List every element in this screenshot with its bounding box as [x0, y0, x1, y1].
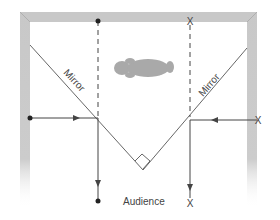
person-shoulder-top	[125, 58, 135, 64]
audience-label: Audience	[123, 196, 165, 207]
left-ray	[30, 21, 98, 201]
left-down-arrow-icon	[95, 180, 101, 187]
left-end-dot	[96, 199, 101, 204]
right-wall	[247, 12, 257, 208]
person-feet	[166, 61, 174, 73]
mirror-right-label: Mirror	[196, 71, 222, 98]
person-shoulder-bottom	[125, 72, 135, 78]
right-x-marker: X	[255, 115, 262, 126]
room-walls	[20, 12, 257, 208]
left-wall	[20, 12, 30, 208]
left-incoming-arrow-icon	[73, 115, 80, 121]
right-down-arrow-icon	[187, 184, 193, 191]
right-ray	[190, 25, 257, 198]
left-top-dot	[96, 19, 101, 24]
person-figure	[114, 58, 174, 78]
left-source-dot	[28, 116, 33, 121]
top-x-marker: X	[187, 16, 194, 27]
mirror-diagram: Mirror Mirror X X X	[0, 0, 280, 220]
diagram-canvas: Mirror Mirror X X X	[0, 0, 280, 220]
right-angle-marker	[135, 154, 150, 169]
mirror-left-label: Mirror	[62, 67, 88, 94]
right-incoming-arrow-icon	[211, 117, 218, 123]
bottom-x-marker: X	[187, 198, 194, 209]
top-wall	[20, 12, 257, 22]
